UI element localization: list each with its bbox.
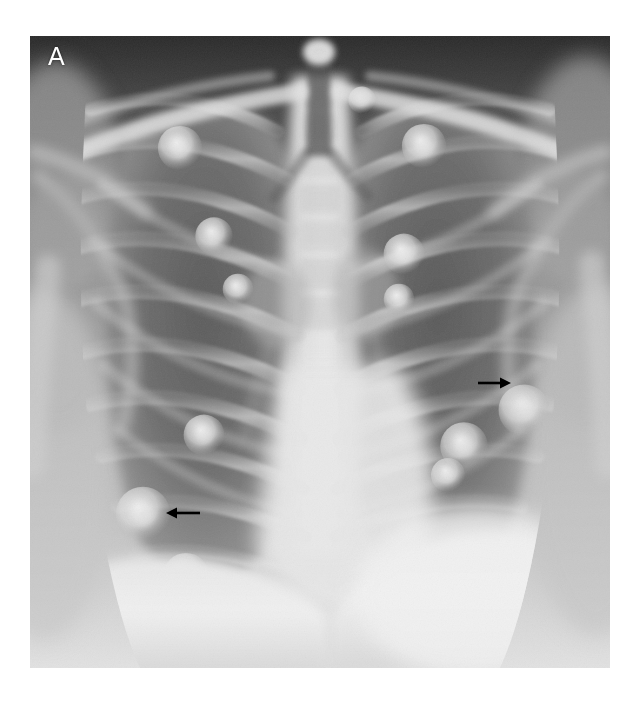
radiograph-canvas: [30, 36, 610, 668]
film-grain: [30, 36, 610, 668]
radiograph-layers: [30, 36, 610, 668]
panel-label-a: A: [48, 44, 65, 69]
figure-page: A: [0, 0, 639, 717]
chest-radiograph-image: [30, 36, 610, 668]
